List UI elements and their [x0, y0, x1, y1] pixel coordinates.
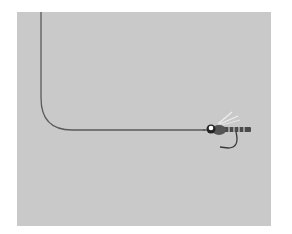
fly-lure-icon — [203, 112, 251, 148]
fishing-line — [41, 12, 205, 130]
fishing-line-illustration — [0, 0, 292, 234]
